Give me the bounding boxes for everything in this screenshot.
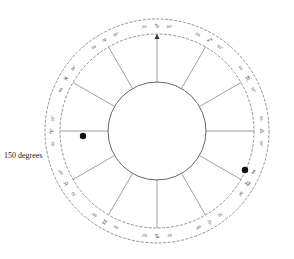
cusp-minute-label: 00 <box>91 44 98 50</box>
cusp-minute-label: 00 <box>58 87 64 94</box>
cusp-degree-label: 30° <box>51 115 55 122</box>
house-cusp-line <box>73 156 115 180</box>
zodiac-sign-icon: ♌ <box>206 218 214 227</box>
cusp-degree-label: 30° <box>112 31 120 38</box>
house-cusp-line <box>109 173 133 215</box>
zodiac-sign-icon: ♐ <box>206 35 214 44</box>
cusp-degree-label: 00° <box>90 211 98 218</box>
zodiac-sign-icon: ♊ <box>100 218 108 227</box>
cusp-minute-label: 00 <box>142 25 147 29</box>
zodiac-sign-icon: ♎ <box>259 128 266 133</box>
zodiac-sign-icon: ♋ <box>154 233 159 240</box>
cusp-degree-label: 00° <box>194 224 202 231</box>
midheaven-arrow-icon <box>155 34 160 39</box>
house-cusp-line <box>199 83 241 107</box>
natal-chart-wheel: 00°♎0030°♏0000°♐0000°♑0030°♒0030°♓0030°♈… <box>0 0 294 259</box>
planet-right-dot <box>242 167 248 173</box>
center-hub-circle <box>108 82 206 180</box>
angle-label: 150 degrees <box>4 151 42 160</box>
cusp-minute-label: 30 <box>70 190 76 197</box>
cusp-degree-label: 30° <box>70 64 77 72</box>
cusp-degree-label: 00° <box>57 168 64 176</box>
cusp-minute-label: 00 <box>51 141 55 146</box>
cusp-minute-label: 00 <box>259 116 263 121</box>
house-cusp-line <box>109 47 133 89</box>
cusp-minute-label: 00 <box>195 32 202 38</box>
cusp-degree-label: 00° <box>216 44 224 51</box>
cusp-degree-label: 00° <box>167 25 174 29</box>
house-cusp-line <box>73 83 115 107</box>
cusp-degree-label: 30° <box>237 190 244 198</box>
zodiac-sign-icon: ♏ <box>244 74 253 83</box>
zodiac-sign-icon: ♑ <box>154 22 159 29</box>
cusp-minute-label: 00 <box>167 233 172 237</box>
cusp-degree-label: 00° <box>259 141 263 148</box>
zodiac-sign-icon: ♉ <box>61 180 70 188</box>
house-cusp-line <box>182 173 206 215</box>
cusp-minute-label: 00 <box>113 224 120 230</box>
zodiac-sign-icon: ♒ <box>100 35 108 44</box>
house-cusp-line <box>199 156 241 180</box>
cusp-minute-label: 00 <box>238 65 244 72</box>
cusp-degree-label: 30° <box>141 233 148 237</box>
zodiac-sign-icon: ♈ <box>48 128 55 134</box>
zodiac-sign-icon: ♍ <box>243 179 253 188</box>
cusp-minute-label: 30 <box>216 212 223 218</box>
planet-left-dot <box>80 133 86 139</box>
cusp-degree-label: 30° <box>250 86 257 94</box>
cusp-minute-label: 00 <box>250 169 256 176</box>
house-cusp-line <box>182 47 206 89</box>
zodiac-sign-icon: ♓ <box>61 74 70 82</box>
